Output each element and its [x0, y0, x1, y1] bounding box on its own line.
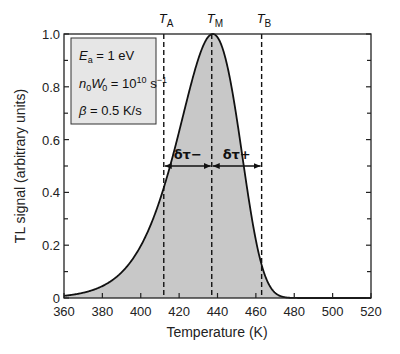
x-tick-label: 360: [53, 304, 75, 319]
x-tick-label: 500: [322, 304, 344, 319]
delta-plus-label: δτ+: [223, 147, 251, 162]
x-tick-label: 400: [130, 304, 152, 319]
parameters-box: Ea = 1 eVn0W′0 = 1010 s−1β = 0.5 K/s: [71, 38, 167, 124]
y-tick-label: 0: [53, 291, 60, 306]
x-tick-label: 460: [245, 304, 267, 319]
y-tick-label: 0.6: [42, 133, 60, 148]
y-tick-label: 0.2: [42, 238, 60, 253]
delta-minus-label: δτ−: [174, 147, 202, 162]
x-tick-label: 520: [360, 304, 382, 319]
param-frequency-factor: n0W′0 = 1010 s−1: [79, 75, 167, 93]
x-tick-label: 420: [168, 304, 190, 319]
param-heating-rate: β = 0.5 K/s: [78, 103, 142, 118]
marker-label-a: TA: [159, 11, 174, 29]
y-tick-label: 0.8: [42, 80, 60, 95]
tl-glow-curve-chart: TATMTBδτ−δτ+ 360380400420440460480500520…: [0, 0, 400, 354]
marker-label-b: TB: [257, 11, 272, 29]
x-axis-title: Temperature (K): [166, 324, 267, 340]
x-tick-label: 480: [283, 304, 305, 319]
x-tick-label: 380: [92, 304, 114, 319]
x-tick-label: 440: [207, 304, 229, 319]
y-tick-label: 0.4: [42, 185, 60, 200]
y-tick-label: 1.0: [42, 27, 60, 42]
marker-label-m: TM: [207, 11, 223, 29]
param-activation-energy: Ea = 1 eV: [79, 48, 135, 65]
y-axis-title: TL signal (arbitrary units): [12, 89, 28, 243]
